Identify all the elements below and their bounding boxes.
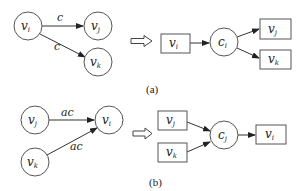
node-vj: vj — [84, 12, 112, 40]
node-vk: vk — [21, 148, 49, 176]
panel-a-right-graph: vi ci vj vk — [161, 19, 291, 69]
transform-arrow-icon — [133, 128, 152, 139]
diagram-canvas: c c vi vj vk vi — [0, 0, 307, 191]
edge-label: ac — [61, 106, 74, 119]
panel-b: ac ac vj vk vi vj — [21, 106, 286, 189]
caption-b: (b) — [149, 176, 162, 189]
edge-vi-vk — [40, 34, 85, 57]
panel-a: c c vi vj vk vi — [14, 11, 291, 96]
box-vi: vi — [256, 125, 286, 144]
box-vk: vk — [158, 143, 187, 162]
edge-label: c — [57, 11, 63, 24]
box-vj: vj — [260, 19, 291, 39]
panel-a-left-graph: c c vi vj vk — [14, 11, 112, 76]
edge-box-vk-cj — [187, 142, 210, 152]
edge-box-vj-cj — [187, 122, 210, 131]
box-vj: vj — [158, 111, 187, 130]
edge-label: ac — [70, 140, 83, 153]
box-vk: vk — [260, 50, 291, 69]
caption-a: (a) — [146, 83, 159, 96]
panel-b-right-graph: vj vk cj vi — [158, 111, 286, 162]
edge-label: c — [54, 40, 60, 53]
circle-ci: ci — [210, 28, 238, 56]
node-vi: vi — [14, 12, 42, 40]
edge-ci-box-vk — [237, 48, 259, 58]
edge-ci-box-vj — [237, 29, 259, 37]
transform-arrow-icon — [131, 36, 152, 47]
node-vj: vj — [21, 106, 49, 134]
circle-cj: cj — [210, 121, 238, 149]
panel-b-left-graph: ac ac vj vk vi — [21, 106, 123, 176]
node-vk: vk — [84, 48, 112, 76]
box-vi: vi — [161, 34, 190, 53]
node-vi: vi — [95, 106, 123, 134]
